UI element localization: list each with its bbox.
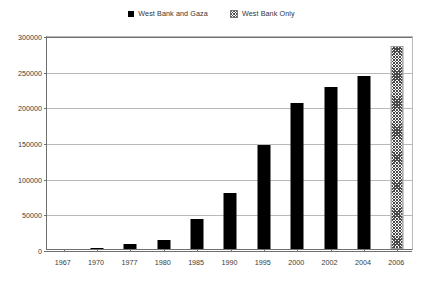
chart-legend: West Bank and Gaza West Bank Only bbox=[0, 9, 423, 18]
bar-chart: West Bank and Gaza West Bank Only 050000… bbox=[0, 0, 423, 285]
legend-swatch-solid-square-icon bbox=[128, 11, 134, 17]
bar-group bbox=[281, 37, 314, 249]
x-axis-tick bbox=[130, 249, 131, 252]
x-axis-label-2000: 2000 bbox=[288, 258, 304, 267]
bar-1990 bbox=[224, 193, 237, 249]
x-axis-label-1977: 1977 bbox=[121, 258, 137, 267]
gridline bbox=[47, 251, 412, 252]
x-axis-tick bbox=[231, 249, 232, 252]
bar-group bbox=[147, 37, 180, 249]
x-axis-tick bbox=[97, 249, 98, 252]
bar-2004 bbox=[357, 76, 370, 249]
bar-2000 bbox=[291, 103, 304, 249]
bar-1980 bbox=[157, 240, 170, 249]
x-axis-label-2002: 2002 bbox=[322, 258, 338, 267]
x-axis-tick bbox=[164, 249, 165, 252]
y-axis-label: 0 bbox=[38, 247, 42, 256]
x-axis-tick bbox=[397, 249, 398, 252]
bar-1985 bbox=[191, 219, 204, 249]
legend-item-west-bank-and-gaza: West Bank and Gaza bbox=[128, 9, 208, 18]
x-axis-label-1995: 1995 bbox=[255, 258, 271, 267]
bar-group bbox=[114, 37, 147, 249]
y-axis-label: 200000 bbox=[18, 104, 42, 113]
bar-1995 bbox=[257, 145, 270, 249]
x-axis-tick bbox=[64, 249, 65, 252]
x-axis-label-1990: 1990 bbox=[222, 258, 238, 267]
bar-group bbox=[180, 37, 213, 249]
bar-group bbox=[314, 37, 347, 249]
x-axis-tick bbox=[331, 249, 332, 252]
bar-2002 bbox=[324, 87, 337, 249]
legend-label-west-bank-only: West Bank Only bbox=[242, 9, 295, 18]
y-axis-label: 150000 bbox=[18, 140, 42, 149]
plot-area: 050000100000150000200000250000300000 bbox=[46, 36, 413, 250]
y-axis-label: 100000 bbox=[18, 175, 42, 184]
x-axis-label-1980: 1980 bbox=[155, 258, 171, 267]
bar-group bbox=[47, 37, 80, 249]
y-axis-label: 300000 bbox=[18, 33, 42, 42]
y-axis-label: 50000 bbox=[22, 211, 42, 220]
bar-group bbox=[381, 37, 414, 249]
x-axis-label-1970: 1970 bbox=[88, 258, 104, 267]
legend-item-west-bank-only: West Bank Only bbox=[230, 9, 295, 18]
y-axis-tick bbox=[44, 251, 47, 252]
bar-group bbox=[347, 37, 380, 249]
bar-group bbox=[80, 37, 113, 249]
x-axis-tick bbox=[264, 249, 265, 252]
legend-swatch-hatched-square-icon bbox=[230, 10, 238, 18]
x-axis-label-2006: 2006 bbox=[388, 258, 404, 267]
bar-group bbox=[214, 37, 247, 249]
y-axis-label: 250000 bbox=[18, 68, 42, 77]
x-axis-label-2004: 2004 bbox=[355, 258, 371, 267]
x-axis-tick bbox=[197, 249, 198, 252]
bar-group bbox=[247, 37, 280, 249]
bar-2006 bbox=[391, 46, 404, 249]
x-axis-tick bbox=[297, 249, 298, 252]
x-axis-label-1985: 1985 bbox=[188, 258, 204, 267]
legend-label-west-bank-and-gaza: West Bank and Gaza bbox=[138, 9, 208, 18]
bars-layer bbox=[47, 37, 412, 249]
x-axis-tick bbox=[364, 249, 365, 252]
x-axis-label-1967: 1967 bbox=[55, 258, 71, 267]
